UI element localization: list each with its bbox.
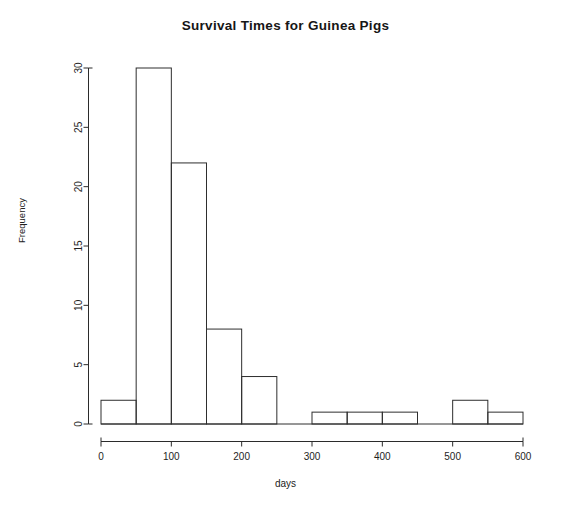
x-axis-tick-label: 0 <box>98 451 104 462</box>
y-axis-line <box>89 68 93 424</box>
y-axis-tick-label: 5 <box>73 361 84 367</box>
x-axis-tick-label: 400 <box>374 451 391 462</box>
histogram-bar <box>347 412 382 424</box>
histogram-bar <box>382 412 417 424</box>
histogram-bar <box>242 377 277 424</box>
y-axis-tick-label: 15 <box>73 240 84 252</box>
y-axis-tick-label: 25 <box>73 121 84 133</box>
x-axis-tick-label: 100 <box>163 451 180 462</box>
histogram-bar <box>207 329 242 424</box>
histogram-bar <box>488 412 523 424</box>
y-axis-tick-label: 30 <box>73 62 84 74</box>
x-axis-tick-label: 200 <box>233 451 250 462</box>
histogram-bar <box>312 412 347 424</box>
histogram-bar <box>101 400 136 424</box>
y-axis-tick-label: 10 <box>73 299 84 311</box>
plot-canvas: 051015202530 0100200300400500600 <box>0 0 571 525</box>
histogram-bar <box>136 68 171 424</box>
x-axis-line <box>101 438 523 442</box>
x-axis: 0100200300400500600 <box>98 438 532 462</box>
x-axis-tick-label: 600 <box>515 451 532 462</box>
x-axis-tick-label: 500 <box>444 451 461 462</box>
histogram-plot: Survival Times for Guinea Pigs Frequency… <box>0 0 571 525</box>
x-axis-tick-label: 300 <box>304 451 321 462</box>
histogram-bars <box>101 68 523 424</box>
y-axis-tick-label: 20 <box>73 181 84 193</box>
histogram-bar <box>453 400 488 424</box>
y-axis: 051015202530 <box>73 62 93 427</box>
y-axis-tick-label: 0 <box>73 421 84 427</box>
histogram-bar <box>171 163 206 424</box>
